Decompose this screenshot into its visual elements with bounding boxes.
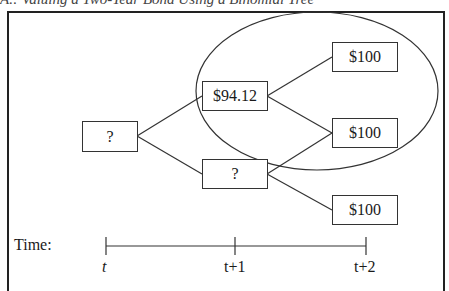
tick-label-t2: t+2 — [354, 258, 375, 276]
node-dd-t2: $100 — [332, 195, 398, 225]
node-uu-t2: $100 — [332, 42, 398, 72]
node-up-t1: $94.12 — [202, 81, 268, 111]
time-label: Time: — [14, 236, 52, 254]
tick-label-t: t — [102, 258, 106, 276]
node-down-t1: ? — [202, 159, 268, 189]
node-root: ? — [82, 121, 138, 152]
node-ud-t2: $100 — [332, 118, 398, 148]
tick-label-t1: t+1 — [224, 258, 245, 276]
